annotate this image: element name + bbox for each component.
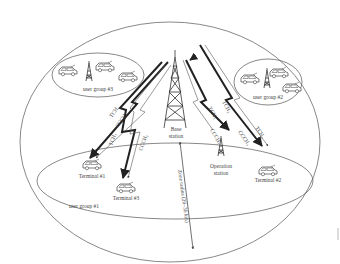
terminal-1: Terminal #1	[79, 159, 106, 179]
base-station-label-2: station	[169, 133, 184, 139]
user-group-2: user group #2	[234, 59, 302, 105]
link-operation-station	[183, 56, 229, 130]
operation-station-label-2: station	[214, 170, 229, 176]
zone-boundary	[20, 22, 320, 262]
base-station-label-1: Base	[171, 126, 182, 132]
network-diagram: user group #3 user group #2 Base station…	[0, 0, 340, 264]
channel-label-tch1: TCH₁	[108, 104, 120, 118]
user-group-2-label: user group #2	[253, 94, 283, 100]
channel-label-tch3: TCH₃	[207, 106, 219, 120]
channel-label-tch2: TCH₂	[221, 100, 233, 114]
user-group-3-label: user group #3	[83, 86, 113, 92]
terminal-2: Terminal #2	[255, 165, 282, 183]
terminal-2-label: Terminal #2	[255, 177, 282, 183]
user-group-1-label: user group #1	[69, 203, 99, 209]
terminal-1-label: Terminal #1	[79, 173, 106, 179]
terminal-3-label: Terminal #3	[113, 195, 140, 201]
operation-station-label-1: Operation	[210, 163, 232, 169]
user-group-3: user group #3	[52, 53, 144, 97]
terminal-3: Terminal #3	[113, 182, 140, 201]
zone-radius-label: Zone radius (20–30 km)	[176, 169, 190, 223]
